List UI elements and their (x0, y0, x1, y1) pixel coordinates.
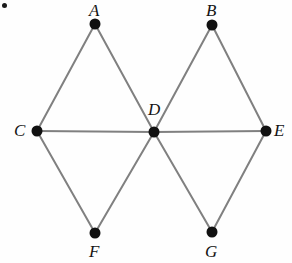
vertex-label-c: C (14, 122, 25, 139)
vertex-label-e: E (274, 122, 284, 139)
vertex-label-a: A (89, 2, 99, 19)
graph-vertex-c (32, 126, 43, 137)
graph-edge-a-c (37, 24, 95, 131)
graph-edge-c-f (37, 131, 95, 233)
graph-vertex-d (149, 127, 160, 138)
vertex-label-g: G (205, 243, 217, 260)
graph-edge-b-e (212, 25, 266, 131)
graph-edge-d-e (154, 131, 266, 132)
graph-edge-c-d (37, 131, 154, 132)
graph-canvas (0, 0, 292, 263)
graph-edge-b-d (154, 25, 212, 132)
graph-edge-d-f (95, 132, 154, 233)
graph-vertex-a (90, 19, 101, 30)
graph-edge-a-d (95, 24, 154, 132)
vertex-label-b: B (206, 2, 216, 19)
vertex-label-d: D (148, 101, 160, 118)
graph-edge-e-g (212, 131, 266, 232)
graph-edge-d-g (154, 132, 212, 232)
vertex-layer (32, 19, 272, 239)
graph-vertex-g (207, 227, 218, 238)
graph-vertex-b (207, 20, 218, 31)
graph-figure: ABCDEFG (0, 0, 292, 263)
graph-vertex-e (261, 126, 272, 137)
vertex-label-f: F (89, 243, 99, 260)
graph-vertex-f (90, 228, 101, 239)
